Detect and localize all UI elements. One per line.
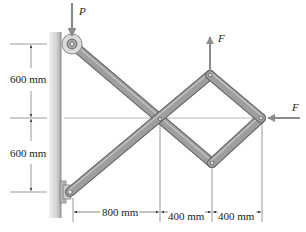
pin-c: [158, 117, 161, 120]
dim-label-600-upper: 600 mm: [10, 73, 47, 85]
force-f-vertical-label: F: [217, 32, 225, 44]
dim-label-400-middle: 400 mm: [168, 210, 205, 222]
vertical-dimension-lines: [10, 44, 47, 192]
dim-label-800: 800 mm: [102, 206, 139, 218]
pin-e: [210, 161, 214, 165]
dim-label-400-right: 400 mm: [218, 210, 255, 222]
pin-g: [259, 116, 263, 120]
linkage-diagram: 600 mm 600 mm 800 mm 400 mm 400 mm: [0, 0, 306, 232]
force-f-horizontal-label: F: [291, 101, 299, 113]
force-p-label: P: [78, 5, 86, 17]
pin-b: [68, 190, 72, 194]
pin-d: [208, 73, 212, 77]
wall: [49, 32, 61, 218]
pin-a: [70, 42, 74, 46]
dim-label-600-lower: 600 mm: [10, 147, 47, 159]
linkage-members: [69, 42, 262, 192]
